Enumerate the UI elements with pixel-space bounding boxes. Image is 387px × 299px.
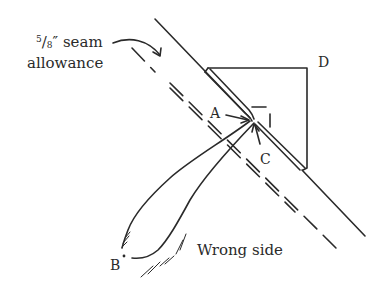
label-point-c: C — [260, 152, 271, 166]
seam-unit-text: ″ seam — [53, 33, 103, 51]
fabric-edge-lower — [302, 170, 365, 236]
seam-line-dashed-inner — [170, 88, 295, 212]
label-point-a: A — [210, 106, 220, 120]
wrong-side-label: Wrong side — [197, 243, 283, 258]
label-point-b: B — [110, 258, 120, 272]
label-point-d: D — [318, 55, 329, 69]
seam-allowance-label-line1: 5/8″ seam — [36, 35, 103, 50]
tool-shape-upper — [122, 121, 250, 248]
tool-shape-lower — [132, 123, 254, 258]
seam-line-dashed-outer — [132, 48, 340, 252]
point-b-dot — [123, 255, 126, 258]
seam-allowance-label-line2: allowance — [27, 56, 103, 71]
diagram-canvas: 5/8″ seam allowance A C D B Wrong side — [0, 0, 387, 299]
